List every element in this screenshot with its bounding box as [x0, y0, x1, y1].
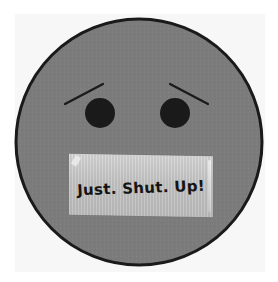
left-eye-icon: [85, 98, 115, 128]
right-eye-icon: [160, 98, 190, 128]
face-illustration: [0, 0, 278, 282]
face-circle: [16, 19, 262, 265]
tape-label: Just. Shut. Up!: [77, 176, 206, 198]
duct-tape-mouth: Just. Shut. Up!: [69, 154, 213, 218]
